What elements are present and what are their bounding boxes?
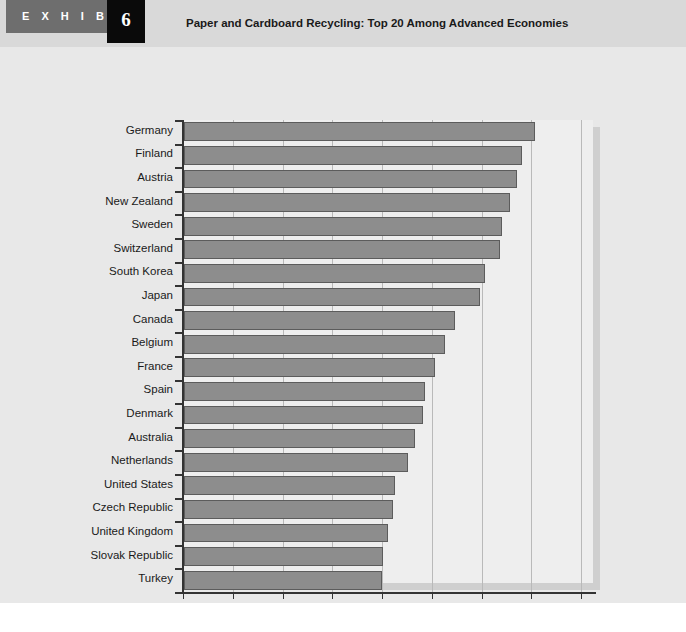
bar-new-zealand [184,193,510,212]
y-tick-18 [175,545,183,547]
bar-turkey [184,571,382,590]
gridline-50 [432,120,433,592]
bar-germany [184,122,535,141]
category-label-slovak-republic: Slovak Republic [3,549,173,561]
y-tick-6 [175,262,183,264]
y-tick-2 [175,167,183,169]
y-tick-3 [175,191,183,193]
figure-body: GermanyFinlandAustriaNew ZealandSwedenSw… [0,47,686,603]
y-tick-19 [175,568,183,570]
category-label-turkey: Turkey [3,572,173,584]
category-label-australia: Australia [3,431,173,443]
bar-south-korea [184,264,485,283]
y-tick-13 [175,427,183,429]
y-tick-11 [175,380,183,382]
bar-spain [184,382,425,401]
exhibit-number-box: 6 [107,0,145,43]
bar-united-kingdom [184,524,388,543]
y-tick-5 [175,238,183,240]
category-label-united-kingdom: United Kingdom [3,525,173,537]
y-tick-17 [175,521,183,523]
category-label-canada: Canada [3,313,173,325]
category-label-switzerland: Switzerland [3,242,173,254]
x-tick-30 [332,594,333,599]
exhibit-number: 6 [107,9,145,31]
category-label-netherlands: Netherlands [3,454,173,466]
x-axis-line [182,592,596,594]
y-tick-end [175,592,183,594]
y-tick-4 [175,214,183,216]
category-label-finland: Finland [3,147,173,159]
y-tick-16 [175,498,183,500]
y-tick-0 [175,120,183,122]
category-label-new-zealand: New Zealand [3,195,173,207]
footer-area [0,603,686,632]
bar-finland [184,146,522,165]
category-label-spain: Spain [3,383,173,395]
category-label-belgium: Belgium [3,336,173,348]
bar-australia [184,429,415,448]
gridline-30 [332,120,333,592]
category-label-germany: Germany [3,124,173,136]
gridline-60 [482,120,483,592]
y-tick-14 [175,450,183,452]
page-title: Paper and Cardboard Recycling: Top 20 Am… [186,17,568,29]
y-tick-15 [175,474,183,476]
bar-switzerland [184,240,500,259]
bar-japan [184,288,480,307]
category-label-japan: Japan [3,289,173,301]
x-tick-40 [382,594,383,599]
y-tick-7 [175,285,183,287]
gridline-80 [581,120,582,592]
category-label-south-korea: South Korea [3,265,173,277]
x-tick-70 [531,594,532,599]
x-tick-80 [581,594,582,599]
y-tick-10 [175,356,183,358]
bar-austria [184,170,517,189]
gridline-40 [382,120,383,592]
y-tick-8 [175,309,183,311]
bar-netherlands [184,453,408,472]
category-label-czech-republic: Czech Republic [3,501,173,513]
bar-denmark [184,406,423,425]
x-tick-60 [482,594,483,599]
y-tick-9 [175,332,183,334]
bar-czech-republic [184,500,393,519]
category-label-united-states: United States [3,478,173,490]
category-label-sweden: Sweden [3,218,173,230]
y-tick-12 [175,403,183,405]
category-label-austria: Austria [3,171,173,183]
bar-france [184,358,435,377]
gridline-10 [233,120,234,592]
bar-belgium [184,335,445,354]
bar-slovak-republic [184,547,383,566]
gridline-70 [531,120,532,592]
y-tick-1 [175,144,183,146]
bar-united-states [184,476,395,495]
gridline-20 [283,120,284,592]
x-tick-10 [233,594,234,599]
x-tick-50 [432,594,433,599]
x-tick-20 [283,594,284,599]
bar-canada [184,311,455,330]
category-label-denmark: Denmark [3,407,173,419]
x-tick-0 [183,594,184,599]
category-label-france: France [3,360,173,372]
y-axis-category-labels: GermanyFinlandAustriaNew ZealandSwedenSw… [0,47,173,603]
exhibit-header-band: E X H I B I T 6 Paper and Cardboard Recy… [0,0,686,47]
bar-sweden [184,217,502,236]
